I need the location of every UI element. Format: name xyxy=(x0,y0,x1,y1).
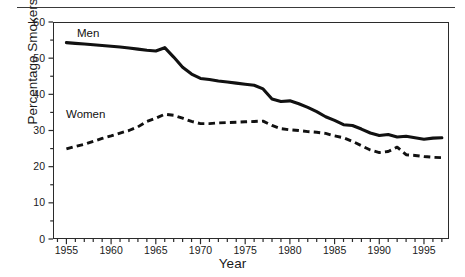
series-label-men: Men xyxy=(77,27,99,39)
x-axis-tick-label: 1960 xyxy=(91,245,131,256)
figure-container: 6050403020100 19551960196519701975198019… xyxy=(0,0,465,277)
y-axis-tick-label: 20 xyxy=(19,161,45,171)
x-axis-tick-label: 1990 xyxy=(359,245,399,256)
x-axis-tick-label: 1965 xyxy=(136,245,176,256)
series-line-men xyxy=(66,43,441,140)
y-axis-tick-label: 0 xyxy=(19,234,45,244)
x-axis-tick-label: 1975 xyxy=(225,245,265,256)
y-axis-tick-label: 10 xyxy=(19,197,45,207)
series-label-women: Women xyxy=(66,108,105,120)
x-axis-tick-label: 1995 xyxy=(404,245,444,256)
x-axis-tick-label: 1980 xyxy=(270,245,310,256)
y-axis-title: Percentage Smokers xyxy=(25,0,40,149)
x-axis-tick-label: 1970 xyxy=(180,245,220,256)
x-axis-tick-label: 1985 xyxy=(315,245,355,256)
data-series-layer xyxy=(0,0,465,277)
x-axis-tick-label: 1955 xyxy=(46,245,86,256)
x-axis-title: Year xyxy=(0,256,465,271)
